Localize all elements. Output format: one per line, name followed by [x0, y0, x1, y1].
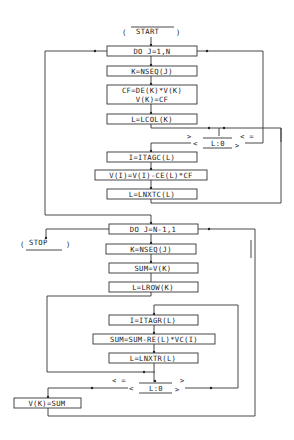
loop2-do-box: DO J=N-1,1 — [109, 224, 198, 234]
loop2-step-nseq: K=NSEQ(J) — [106, 244, 196, 254]
step-label: V(K)=SUM — [28, 399, 65, 408]
decision-le-label: < = — [112, 376, 126, 385]
loop1-step-cf: CF=DE(K)*V(K) V(K)=CF — [107, 85, 197, 104]
loop2-inner-update: SUM=SUM-RE(L)*VC(I) — [93, 334, 215, 344]
decision-le-label: < = — [240, 132, 254, 141]
loop1-inner-lnxtc: L=LNXTC(L) — [107, 189, 197, 199]
loop1-step-nseq: K=NSEQ(J) — [107, 66, 197, 76]
loop2-decision: < = < L:0 > > — [112, 376, 185, 394]
step-label: L=LNXTC(L) — [129, 190, 175, 199]
step-label: L=LCOL(K) — [131, 115, 173, 124]
start-terminal: ( START ) — [122, 27, 181, 37]
step-label: SUM=SUM-RE(L)*VC(I) — [110, 335, 198, 344]
decision-label: L:0 — [211, 139, 225, 148]
decision-label: L:0 — [149, 384, 163, 393]
svg-text:<: < — [129, 384, 134, 393]
svg-text:<: < — [193, 139, 198, 148]
loop1-decision: > < L:0 > < = — [187, 132, 254, 150]
loop1-inner-itagc: I=ITAGC(L) — [107, 152, 197, 162]
svg-text:>: > — [175, 385, 180, 394]
start-label: START — [136, 27, 160, 36]
loop2-inner-lnxtr: L=LNXTR(L) — [109, 353, 198, 363]
svg-text:): ) — [176, 28, 181, 37]
step-label: L=LROW(K) — [132, 283, 174, 292]
svg-text:>: > — [235, 141, 240, 150]
loop2-step-sum: SUM=V(K) — [109, 263, 198, 273]
step-label: L=LNXTR(L) — [130, 354, 176, 363]
step-label: I=ITAGC(L) — [129, 153, 175, 162]
svg-text:): ) — [66, 240, 71, 249]
step-label: V(I)=V(I)-CE(L)*CF — [109, 171, 192, 180]
stop-terminal: ( STOP ) — [20, 238, 71, 250]
loop1-do-box: DO J=1,N — [107, 46, 197, 56]
loop1-step-lcol: L=LCOL(K) — [107, 114, 197, 124]
flowchart: ( START ) ( STOP ) DO J=1,N K=NSEQ(J) CF… — [0, 0, 294, 440]
loop2-inner-itagr: I=ITAGR(L) — [109, 315, 198, 325]
loop2-do-label: DO J=N-1,1 — [130, 225, 176, 234]
step-label: K=NSEQ(J) — [130, 245, 172, 254]
stop-label: STOP — [29, 238, 48, 247]
step-label: K=NSEQ(J) — [131, 67, 173, 76]
step-label: V(K)=CF — [136, 95, 168, 104]
svg-text:(: ( — [122, 28, 127, 37]
step-label: CF=DE(K)*V(K) — [122, 86, 182, 95]
step-label: SUM=V(K) — [134, 264, 171, 273]
svg-text:(: ( — [20, 240, 25, 249]
loop1-inner-update: V(I)=V(I)-CE(L)*CF — [95, 170, 207, 180]
loop1-do-label: DO J=1,N — [133, 47, 170, 56]
loop2-final-vk: V(K)=SUM — [14, 398, 81, 408]
decision-gt-label: > — [187, 132, 192, 141]
step-label: I=ITAGR(L) — [130, 316, 176, 325]
loop2-step-lrow: L=LROW(K) — [109, 282, 198, 292]
decision-gt-label: > — [180, 376, 185, 385]
